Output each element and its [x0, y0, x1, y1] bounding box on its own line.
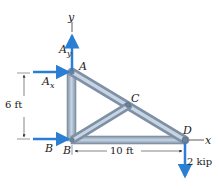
- force-ay-label: Ay: [59, 44, 71, 58]
- joint-c-pin: [126, 103, 131, 108]
- joint-b-label: B: [63, 145, 71, 156]
- member-ab: [67, 71, 76, 141]
- y-axis-label: y: [68, 12, 74, 23]
- joint-c-label: C: [131, 93, 139, 104]
- joint-d-label: D: [183, 125, 192, 136]
- dim-width-label: 10 ft: [110, 146, 134, 156]
- x-axis-label: x: [205, 135, 211, 146]
- dim-height-label: 6 ft: [5, 100, 22, 110]
- force-b-label: B: [45, 143, 53, 154]
- member-bd: [71, 136, 186, 144]
- joint-a-label: A: [79, 61, 87, 72]
- joint-d-pin: [182, 137, 188, 143]
- force-ax-label: Ax: [42, 76, 54, 90]
- load-label: 2 kip: [187, 157, 212, 167]
- joint-b-pin: [70, 138, 75, 143]
- truss-members: [67, 71, 186, 144]
